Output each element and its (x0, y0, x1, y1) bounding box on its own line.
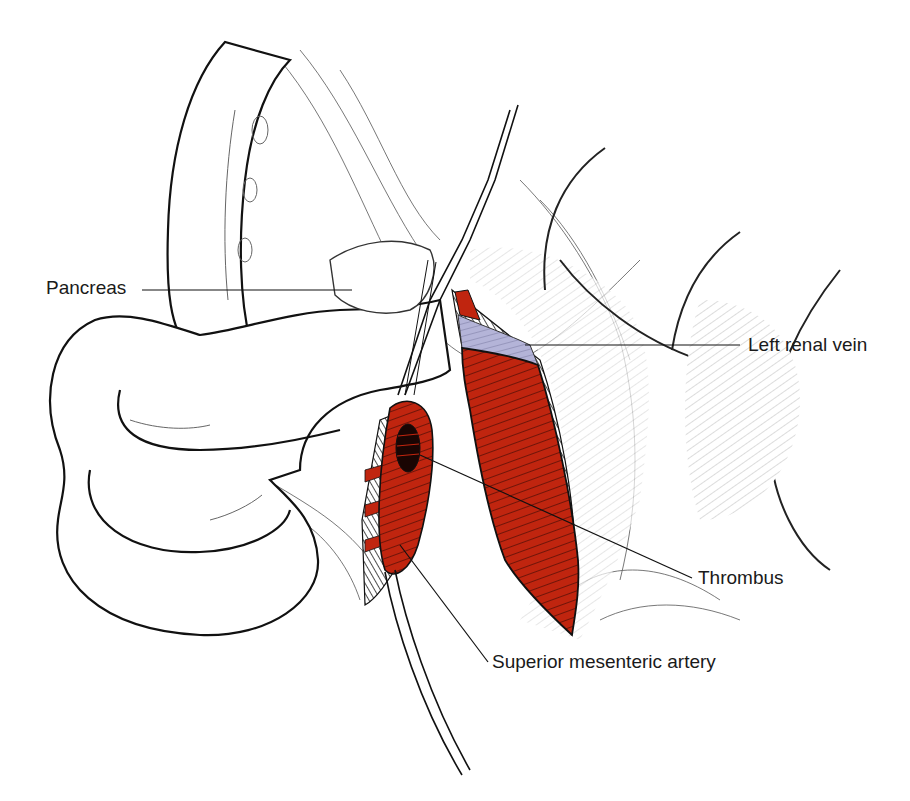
anatomical-figure: Pancreas Left renal vein Thrombus Superi… (0, 0, 910, 801)
label-superior-mesenteric-artery: Superior mesenteric artery (492, 651, 716, 673)
kidney-hatching (685, 300, 800, 520)
label-pancreas: Pancreas (46, 277, 126, 299)
pancreas (330, 241, 434, 313)
illustration-drawing (0, 0, 910, 801)
arteriotomy-thrombus (396, 424, 420, 472)
label-left-renal-vein: Left renal vein (748, 334, 867, 356)
leader-line-sma (400, 545, 488, 662)
label-thrombus: Thrombus (698, 567, 784, 589)
colon (168, 42, 290, 350)
